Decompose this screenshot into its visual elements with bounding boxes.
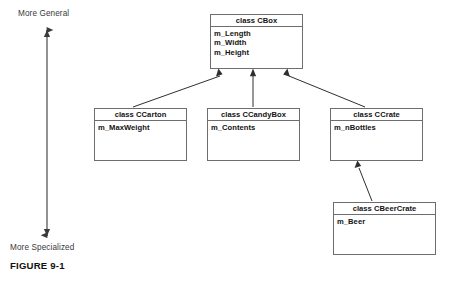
- axis-label-more-general: More General: [18, 9, 69, 18]
- class-box-header-ccarton: class CCarton: [95, 109, 186, 121]
- class-member-row: m_Contents: [211, 123, 299, 132]
- class-box-ccrate[interactable]: class CCrate m_nBottles: [330, 108, 423, 161]
- class-box-header-cbox: class CBox: [211, 15, 302, 27]
- class-member-row: m_Beer: [337, 217, 435, 226]
- class-member-row: m_nBottles: [334, 123, 422, 132]
- class-box-header-cbeercrate: class CBeerCrate: [334, 203, 435, 215]
- generalization-axis-arrow: [44, 30, 50, 236]
- inheritance-arrow-ccandybox-to-cbox: [250, 69, 256, 107]
- class-member-row: m_MaxWeight: [98, 123, 186, 132]
- inheritance-arrow-ccarton-to-cbox: [133, 69, 223, 107]
- class-member-row: m_Height: [214, 48, 302, 57]
- class-box-cbox[interactable]: class CBox m_Length m_Width m_Height: [210, 14, 303, 69]
- class-box-ccarton[interactable]: class CCarton m_MaxWeight: [94, 108, 187, 161]
- figure-caption: FIGURE 9-1: [10, 260, 65, 271]
- class-member-row: m_Width: [214, 38, 302, 47]
- class-box-body-cbox: m_Length m_Width m_Height: [211, 27, 302, 57]
- class-box-header-ccrate: class CCrate: [331, 109, 422, 121]
- class-member-row: m_Length: [214, 29, 302, 38]
- class-box-body-ccandybox: m_Contents: [208, 121, 299, 132]
- inheritance-arrow-cbeercrate-to-ccrate: [355, 161, 372, 201]
- class-box-body-ccarton: m_MaxWeight: [95, 121, 186, 132]
- uml-class-diagram-figure: More General More Specialized class CBox…: [0, 0, 449, 282]
- class-box-body-cbeercrate: m_Beer: [334, 215, 435, 226]
- class-box-header-ccandybox: class CCandyBox: [208, 109, 299, 121]
- inheritance-arrow-ccrate-to-cbox: [283, 69, 365, 107]
- class-box-ccandybox[interactable]: class CCandyBox m_Contents: [207, 108, 300, 161]
- axis-label-more-specialized: More Specialized: [10, 243, 74, 252]
- class-box-cbeercrate[interactable]: class CBeerCrate m_Beer: [333, 202, 436, 255]
- class-box-body-ccrate: m_nBottles: [331, 121, 422, 132]
